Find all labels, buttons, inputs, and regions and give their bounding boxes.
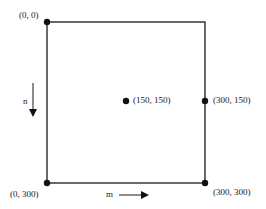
point-dot-right-mid (202, 98, 208, 104)
point-dot-bottom-left (44, 180, 50, 186)
label-top-left: (0, 0) (19, 11, 39, 20)
n-axis-label: n (23, 97, 28, 106)
label-bottom-right: (300, 300) (213, 188, 251, 197)
point-dot-center (123, 98, 129, 104)
point-dot-top-left (44, 19, 50, 25)
m-axis-label: m (106, 190, 113, 199)
coordinate-diagram: (0, 0) (150, 150) (300, 150) (0, 300) (3… (0, 0, 266, 209)
n-axis-arrow-icon (29, 83, 37, 117)
label-bottom-left: (0, 300) (10, 190, 39, 199)
label-center: (150, 150) (133, 96, 171, 105)
m-axis-arrow-icon (119, 191, 149, 199)
label-right-mid: (300, 150) (213, 96, 251, 105)
point-dot-bottom-right (202, 180, 208, 186)
